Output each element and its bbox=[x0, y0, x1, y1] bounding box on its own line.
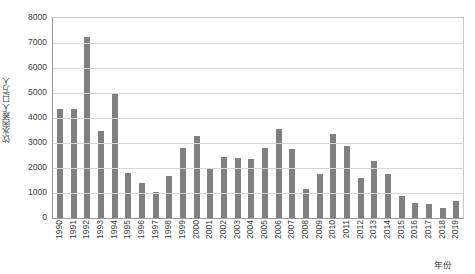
x-tick-slot: 2011 bbox=[339, 219, 353, 259]
x-tick-label: 2019 bbox=[450, 220, 460, 239]
x-tick-slot: 1991 bbox=[66, 219, 80, 259]
x-tick-slot: 2005 bbox=[257, 219, 271, 259]
bar[interactable] bbox=[194, 136, 200, 219]
x-tick-slot: 1997 bbox=[148, 219, 162, 259]
x-tick-label: 2010 bbox=[327, 220, 337, 239]
x-tick-label: 2002 bbox=[218, 220, 228, 239]
x-tick-label: 2015 bbox=[396, 220, 406, 239]
y-tick-label: 5000 bbox=[28, 87, 47, 97]
x-tick-label: 2006 bbox=[273, 220, 283, 239]
bar[interactable] bbox=[139, 183, 145, 218]
x-tick-slot: 2010 bbox=[325, 219, 339, 259]
bar[interactable] bbox=[330, 134, 336, 218]
x-tick-label: 1999 bbox=[177, 220, 187, 239]
y-tick-label: 2000 bbox=[28, 162, 47, 172]
x-tick-label: 2011 bbox=[341, 220, 351, 238]
x-tick-slot: 1999 bbox=[175, 219, 189, 259]
x-tick-slot: 2004 bbox=[243, 219, 257, 259]
x-tick-slot: 1995 bbox=[120, 219, 134, 259]
gridline bbox=[53, 168, 463, 169]
x-tick-slot: 2019 bbox=[448, 219, 462, 259]
bar[interactable] bbox=[57, 109, 63, 219]
x-tick-label: 1993 bbox=[95, 220, 105, 239]
x-tick-slot: 2002 bbox=[216, 219, 230, 259]
bar[interactable] bbox=[399, 196, 405, 218]
x-tick-label: 2004 bbox=[245, 220, 255, 239]
x-tick-label: 1996 bbox=[136, 220, 146, 239]
gridline bbox=[53, 143, 463, 144]
x-tick-slot: 2003 bbox=[230, 219, 244, 259]
bar[interactable] bbox=[426, 204, 432, 218]
bar[interactable] bbox=[344, 146, 350, 219]
bar[interactable] bbox=[235, 158, 241, 218]
x-tick-slot: 1996 bbox=[134, 219, 148, 259]
x-tick-label: 1998 bbox=[163, 220, 173, 239]
x-tick-slot: 2017 bbox=[421, 219, 435, 259]
y-tick-label: 8000 bbox=[28, 12, 47, 22]
x-tick-label: 1990 bbox=[54, 220, 64, 239]
x-tick-label: 2000 bbox=[191, 220, 201, 239]
x-tick-slot: 2015 bbox=[394, 219, 408, 259]
bar[interactable] bbox=[166, 176, 172, 219]
bar[interactable] bbox=[358, 178, 364, 218]
gridline bbox=[53, 118, 463, 119]
x-tick-slot: 2008 bbox=[298, 219, 312, 259]
y-axis-tick-labels: 800070006000500040003000200010000 bbox=[14, 0, 50, 274]
y-tick-label: 6000 bbox=[28, 62, 47, 72]
x-tick-label: 2001 bbox=[204, 220, 214, 239]
x-tick-label: 1992 bbox=[81, 220, 91, 239]
bar[interactable] bbox=[453, 201, 459, 219]
bar[interactable] bbox=[180, 148, 186, 218]
x-tick-slot: 1998 bbox=[161, 219, 175, 259]
x-tick-slot: 1993 bbox=[93, 219, 107, 259]
x-tick-label: 1994 bbox=[109, 220, 119, 239]
bar[interactable] bbox=[125, 173, 131, 218]
x-tick-slot: 2006 bbox=[271, 219, 285, 259]
x-tick-label: 1991 bbox=[68, 220, 78, 239]
bar[interactable] bbox=[221, 157, 227, 218]
x-tick-slot: 2018 bbox=[435, 219, 449, 259]
x-tick-slot: 1992 bbox=[79, 219, 93, 259]
bar[interactable] bbox=[112, 94, 118, 219]
x-tick-label: 1995 bbox=[122, 220, 132, 239]
bar[interactable] bbox=[153, 192, 159, 218]
bar[interactable] bbox=[262, 148, 268, 218]
y-axis-title: 饮水困难人口/万人 bbox=[0, 30, 14, 190]
x-tick-slot: 1994 bbox=[107, 219, 121, 259]
bar[interactable] bbox=[440, 208, 446, 219]
x-tick-label: 2003 bbox=[232, 220, 242, 239]
x-tick-label: 2013 bbox=[368, 220, 378, 239]
x-axis-tick-labels: 1990199119921993199419951996199719981999… bbox=[52, 219, 462, 259]
x-tick-slot: 2001 bbox=[202, 219, 216, 259]
x-tick-slot: 2007 bbox=[284, 219, 298, 259]
x-tick-label: 2009 bbox=[314, 220, 324, 239]
bar[interactable] bbox=[371, 161, 377, 219]
bar[interactable] bbox=[289, 149, 295, 218]
bar[interactable] bbox=[412, 203, 418, 218]
x-tick-slot: 2014 bbox=[380, 219, 394, 259]
x-axis-title: 年份 bbox=[0, 258, 462, 270]
x-tick-label: 2007 bbox=[286, 220, 296, 239]
x-tick-slot: 2013 bbox=[366, 219, 380, 259]
x-tick-label: 2012 bbox=[355, 220, 365, 239]
x-tick-label: 2018 bbox=[437, 220, 447, 239]
y-tick-label: 3000 bbox=[28, 137, 47, 147]
x-tick-label: 1997 bbox=[150, 220, 160, 239]
bar[interactable] bbox=[317, 174, 323, 218]
x-tick-label: 2014 bbox=[382, 220, 392, 239]
gridline bbox=[53, 68, 463, 69]
x-tick-slot: 1990 bbox=[52, 219, 66, 259]
bar[interactable] bbox=[385, 174, 391, 219]
bar[interactable] bbox=[71, 109, 77, 218]
x-tick-slot: 2016 bbox=[407, 219, 421, 259]
x-tick-label: 2017 bbox=[423, 220, 433, 239]
x-tick-slot: 2000 bbox=[189, 219, 203, 259]
y-tick-label: 0 bbox=[42, 212, 47, 222]
gridline bbox=[53, 193, 463, 194]
bar-chart: 饮水困难人口/万人 800070006000500040003000200010… bbox=[0, 0, 475, 274]
x-tick-slot: 2012 bbox=[353, 219, 367, 259]
x-tick-label: 2005 bbox=[259, 220, 269, 239]
plot-area bbox=[52, 17, 464, 219]
bar[interactable] bbox=[84, 37, 90, 218]
x-tick-label: 2016 bbox=[409, 220, 419, 239]
